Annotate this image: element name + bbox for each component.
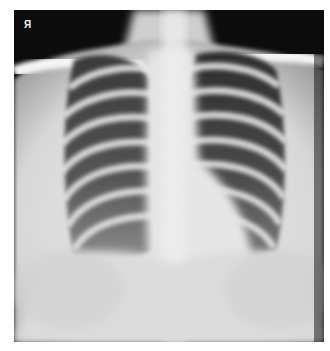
side-marker: Я xyxy=(24,20,31,30)
xray-image: Я xyxy=(14,10,324,342)
chest-xray-graphic xyxy=(14,10,324,342)
